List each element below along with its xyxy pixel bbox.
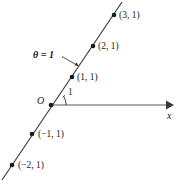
polar-line-figure: (3, 1) (2, 1) (1, 1) (−1, 1) (−2, 1) θ =… bbox=[0, 0, 180, 184]
point-dot bbox=[10, 163, 15, 168]
point-label-3-1: (3, 1) bbox=[119, 11, 140, 21]
point-dot bbox=[70, 75, 75, 80]
point-label-minus2-1: (−2, 1) bbox=[18, 161, 44, 171]
point-label-2-1: (2, 1) bbox=[98, 42, 119, 52]
x-axis-label: x bbox=[167, 111, 171, 121]
theta-line bbox=[2, 2, 122, 180]
angle-arc-curve bbox=[64, 96, 67, 105]
angle-arc-tick bbox=[63, 95, 65, 97]
origin-dot bbox=[49, 103, 54, 108]
theta-equals-one-label: θ = 1 bbox=[33, 50, 54, 60]
point-label-1-1: (1, 1) bbox=[77, 73, 98, 83]
point-dot bbox=[91, 44, 96, 49]
point-label-minus1-1: (−1, 1) bbox=[38, 130, 64, 140]
point-dot bbox=[112, 13, 117, 18]
angle-value-label: 1 bbox=[68, 88, 73, 98]
point-dot bbox=[30, 132, 35, 137]
x-axis-arrowhead bbox=[166, 101, 174, 110]
figure-canvas bbox=[0, 0, 180, 184]
origin-label: O bbox=[37, 96, 44, 106]
